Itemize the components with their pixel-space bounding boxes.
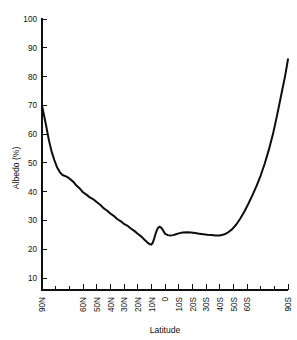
x-tick-label: 50N [93,297,102,312]
x-tick-label: 90N [38,297,47,312]
y-axis-ticks: 102030405060708090100 [23,15,47,283]
y-axis-title: Albedo (%) [11,147,21,190]
x-tick-label: 10N [148,297,157,312]
x-axis-ticks: 90N60N50N40N30N20N10N010S20S30S40S50S60S… [38,284,293,312]
x-axis-title: Latitude [150,325,181,335]
y-tick-label: 10 [28,274,38,283]
y-tick-label: 20 [28,245,38,254]
y-tick-label: 30 [28,216,38,225]
x-tick-label: 10S [175,296,184,311]
y-tick-label: 90 [28,44,38,53]
x-tick-label: 30S [202,296,211,311]
albedo-line-series [42,59,288,244]
albedo-latitude-chart: 102030405060708090100 90N60N50N40N30N20N… [0,0,297,340]
x-tick-label: 60N [79,297,88,312]
y-tick-label: 70 [28,101,38,110]
x-tick-label: 50S [230,296,239,311]
data-series-group [42,59,288,244]
x-tick-label: 20S [189,296,198,311]
chart-canvas: 102030405060708090100 90N60N50N40N30N20N… [0,0,297,340]
x-tick-label: 40N [107,297,116,312]
chart-axes [42,18,288,290]
x-tick-label: 20N [134,297,143,312]
x-tick-label: 40S [216,296,225,311]
y-tick-label: 100 [23,15,37,24]
x-tick-label: 60S [243,296,252,311]
y-tick-label: 60 [28,130,38,139]
y-tick-label: 80 [28,73,38,82]
y-tick-label: 50 [28,159,38,168]
x-tick-label: 30N [120,297,129,312]
axis-frame [42,18,288,290]
x-tick-label: 0 [161,297,170,302]
x-tick-label: 90S [284,296,293,311]
y-tick-label: 40 [28,188,38,197]
